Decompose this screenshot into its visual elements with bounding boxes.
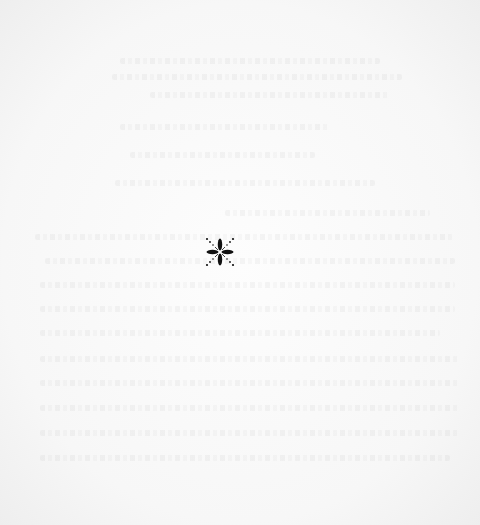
- document-page: [0, 0, 480, 525]
- fleuron-asterism-icon: [204, 236, 236, 268]
